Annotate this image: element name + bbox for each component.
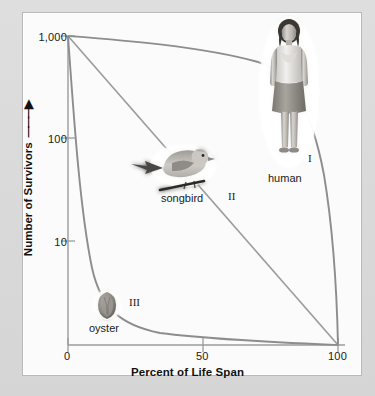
y-axis-title-text: Number of Survivors <box>22 142 34 256</box>
songbird-illustration <box>131 145 216 190</box>
y-tick-label-1000: 1,000 <box>38 31 67 43</box>
label-oyster: oyster <box>89 322 119 334</box>
oyster-illustration <box>93 290 121 320</box>
y-tick-label-100: 100 <box>48 133 67 145</box>
y-axis-arrow-icon: ———▶ <box>21 102 35 138</box>
curve-roman-iii: III <box>129 296 140 308</box>
label-songbird: songbird <box>161 192 203 204</box>
x-tick-label-0: 0 <box>64 350 70 362</box>
curve-roman-ii: II <box>228 190 235 202</box>
figure-container: 1,000 100 10 0 50 100 Number of Survivor… <box>0 0 375 396</box>
x-tick-label-50: 50 <box>196 350 209 362</box>
human-illustration <box>259 16 319 168</box>
y-tick-label-10: 10 <box>54 236 67 248</box>
curve-roman-i: I <box>308 152 312 164</box>
label-human: human <box>268 172 302 184</box>
x-tick-label-100: 100 <box>328 350 347 362</box>
x-axis-title: Percent of Life Span <box>0 366 375 378</box>
y-axis-title: Number of Survivors———▶ <box>21 89 35 269</box>
